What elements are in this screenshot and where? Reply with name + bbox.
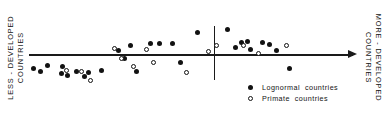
filled-circle-icon: [248, 85, 253, 90]
data-point: [184, 70, 189, 75]
legend-item-primate: Primate countries: [248, 93, 338, 104]
data-point: [260, 40, 265, 45]
data-point: [267, 42, 272, 47]
data-point: [148, 41, 153, 46]
data-point: [79, 69, 84, 74]
legend: Lognormal countries Primate countries: [248, 82, 338, 104]
data-point: [287, 66, 292, 71]
data-point: [206, 49, 211, 54]
data-point: [131, 64, 136, 69]
data-point: [134, 69, 139, 74]
data-point: [31, 66, 36, 71]
legend-item-label: Lognormal countries: [262, 83, 338, 92]
data-point: [88, 78, 93, 83]
data-point: [248, 47, 253, 52]
data-point: [274, 48, 279, 53]
data-point: [144, 47, 149, 52]
horizontal-axis-line: [29, 54, 353, 56]
data-point: [284, 43, 289, 48]
data-point: [119, 56, 124, 61]
legend-item-label: Primate countries: [262, 94, 328, 103]
data-point: [225, 27, 230, 32]
data-point: [99, 68, 104, 73]
data-point: [65, 73, 70, 78]
data-point: [38, 69, 43, 74]
data-point: [241, 43, 246, 48]
data-point: [59, 71, 64, 76]
data-point: [64, 68, 69, 73]
right-axis-label: MORE - DEVELOPED COUNTRIES: [363, 10, 382, 106]
axis-arrow-icon: [348, 50, 357, 58]
data-point: [256, 51, 261, 56]
data-point: [112, 46, 117, 51]
left-axis-label: LESS - DEVELOPED COUNTRIES: [6, 10, 25, 106]
data-point: [157, 41, 162, 46]
data-point: [195, 30, 200, 35]
data-point: [82, 74, 87, 79]
data-point: [178, 60, 183, 65]
data-point: [45, 63, 50, 68]
data-point: [233, 45, 238, 50]
legend-item-lognormal: Lognormal countries: [248, 82, 338, 93]
data-point: [151, 60, 156, 65]
vertical-divider-line: [214, 26, 215, 80]
data-point: [128, 43, 133, 48]
data-point: [214, 43, 219, 48]
scatter-plot-figure: LESS - DEVELOPED COUNTRIES MORE - DEVELO…: [0, 0, 392, 113]
data-point: [170, 41, 175, 46]
data-point: [74, 69, 79, 74]
open-circle-icon: [248, 96, 253, 101]
